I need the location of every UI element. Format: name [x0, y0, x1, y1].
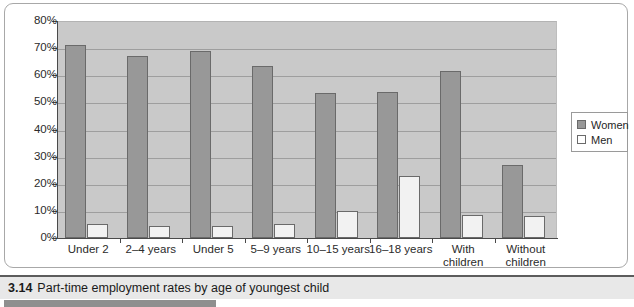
y-tick-label: 20% [11, 178, 57, 189]
y-tick-label: 10% [11, 205, 57, 216]
bar-men [274, 224, 295, 238]
bar-men [149, 226, 170, 238]
chart-legend: Women Men [571, 112, 628, 152]
bar-women [252, 66, 273, 238]
y-tick-label: 60% [11, 69, 57, 80]
bar-women [65, 45, 86, 238]
legend-swatch-men-icon [577, 135, 586, 144]
y-tick-label: 70% [11, 42, 57, 53]
caption-bar: 3.14Part-time employment rates by age of… [0, 275, 634, 299]
legend-label-women: Women [591, 119, 629, 131]
gridline [57, 49, 556, 50]
figure-number: 3.14 [8, 281, 32, 295]
legend-swatch-women-icon [577, 120, 586, 129]
y-tick-label: 80% [11, 15, 57, 26]
x-axis-label: Withoutchildren [489, 243, 564, 269]
y-tick-label: 40% [11, 124, 57, 135]
bar-women [190, 51, 211, 238]
bar-men [399, 176, 420, 238]
page-edge-sliver [4, 300, 216, 307]
plot-area [57, 21, 557, 238]
bar-men [462, 215, 483, 238]
bar-men [337, 211, 358, 238]
bar-women [315, 93, 336, 238]
x-label-line: children [489, 256, 564, 269]
bar-women [502, 165, 523, 238]
legend-item-women[interactable]: Women [577, 118, 623, 131]
y-tick-label: 50% [11, 96, 57, 107]
legend-label-men: Men [591, 134, 612, 146]
figure-caption: 3.14Part-time employment rates by age of… [8, 281, 329, 295]
bar-men [524, 216, 545, 238]
bar-men [87, 224, 108, 238]
legend-item-men[interactable]: Men [577, 133, 623, 146]
y-axis: 80%70%60%50%40%30%20%10%0% [0, 0, 57, 268]
chart-region: 80%70%60%50%40%30%20%10%0% Women Men Und… [0, 0, 634, 268]
y-tick-label: 0% [11, 232, 57, 243]
bar-women [377, 92, 398, 238]
bar-women [127, 56, 148, 238]
bar-men [212, 226, 233, 238]
bar-women [440, 71, 461, 238]
figure-caption-text: Part-time employment rates by age of you… [37, 281, 329, 295]
x-label-line: Without [489, 243, 564, 256]
y-tick-label: 30% [11, 151, 57, 162]
y-axis-line [57, 21, 58, 239]
